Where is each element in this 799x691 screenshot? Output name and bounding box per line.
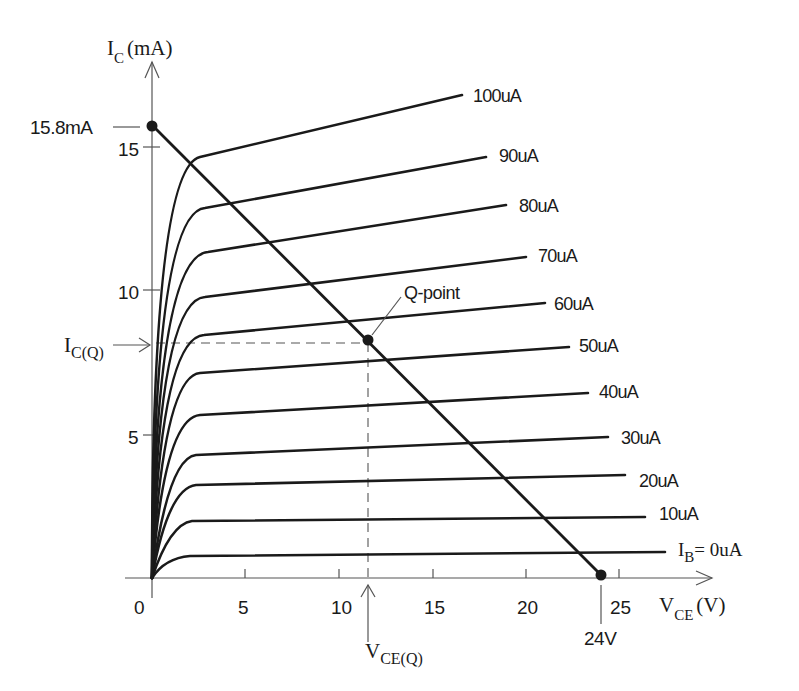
x-axis-title: V — [659, 593, 674, 617]
curve-0ua — [152, 552, 665, 578]
x-tick-5: 5 — [238, 597, 249, 618]
q-point-guides — [156, 343, 368, 578]
curve-10ua — [152, 517, 645, 578]
x-tick-20: 20 — [517, 597, 538, 618]
label-20ua: 20uA — [639, 471, 679, 491]
vce-cutoff-label: 24V — [584, 628, 617, 649]
cutoff-point — [596, 570, 607, 581]
icq-label: I — [64, 333, 71, 357]
svg-text:VCE(V): VCE(V) — [659, 593, 726, 623]
x-tick-10: 10 — [331, 597, 352, 618]
y-tick-15: 15 — [118, 139, 139, 160]
curve-60ua — [152, 303, 545, 578]
svg-text:IC(mA): IC(mA) — [107, 36, 173, 66]
label-40ua: 40uA — [599, 382, 639, 402]
label-90ua: 90uA — [499, 146, 539, 166]
y-axis-title: I — [107, 36, 114, 60]
ic-sat-label: 15.8mA — [30, 117, 93, 138]
vceq-label: V — [365, 639, 380, 663]
curve-labels: 100uA 90uA 80uA 70uA 60uA 50uA 40uA 30uA… — [473, 86, 743, 565]
transistor-characteristic-chart: IC(mA) VCE(V) 0 5 10 15 20 25 15 10 5 IC… — [0, 0, 799, 691]
origin-label: 0 — [134, 597, 145, 618]
curve-90ua — [152, 157, 486, 578]
x-tick-25: 25 — [610, 597, 631, 618]
svg-text:IC(Q): IC(Q) — [64, 333, 104, 362]
y-tick-5: 5 — [128, 427, 139, 448]
q-point-dot — [363, 335, 374, 346]
curve-70ua — [152, 257, 526, 578]
svg-text:VCE(Q): VCE(Q) — [365, 639, 423, 668]
x-tick-15: 15 — [424, 597, 445, 618]
label-30ua: 30uA — [621, 428, 661, 448]
y-tick-10: 10 — [118, 282, 139, 303]
label-60ua: 60uA — [554, 294, 594, 314]
label-50ua: 50uA — [579, 336, 619, 356]
label-70ua: 70uA — [538, 246, 578, 266]
svg-text:IB= 0uA: IB= 0uA — [678, 539, 743, 565]
label-80ua: 80uA — [519, 196, 559, 216]
sat-point — [147, 121, 158, 132]
label-10ua: 10uA — [659, 504, 699, 524]
label-100ua: 100uA — [473, 86, 522, 106]
curve-50ua — [152, 347, 569, 578]
q-point-label: Q-point — [404, 283, 460, 303]
